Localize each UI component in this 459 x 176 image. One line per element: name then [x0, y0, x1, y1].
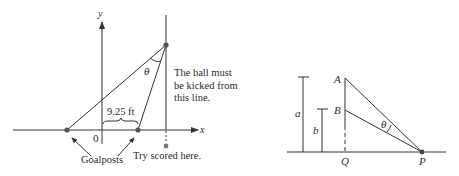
- goalposts-label: Goalposts: [81, 154, 123, 166]
- left-points: [64, 42, 168, 148]
- height-b-label: b: [313, 124, 319, 136]
- right-goalpost-point: [135, 127, 140, 132]
- note-line-1: The ball must: [174, 67, 238, 80]
- try-point: [164, 144, 169, 149]
- note-line-3: this line.: [174, 92, 238, 105]
- kick-line-note: The ball must be kicked from this line.: [174, 67, 238, 105]
- height-a-label: a: [295, 107, 301, 119]
- angle-theta-right: θ: [381, 118, 386, 130]
- point-p: [420, 150, 425, 155]
- distance-brace: [103, 118, 138, 124]
- angle-theta-left: θ: [144, 65, 149, 77]
- kick-point: [163, 42, 168, 47]
- try-scored-label: Try scored here.: [133, 150, 201, 162]
- left-goalpost-point: [64, 127, 69, 132]
- origin-label: 0: [93, 132, 99, 144]
- distance-label: 9.25 ft: [107, 106, 134, 118]
- x-axis-label: x: [200, 124, 204, 136]
- angle-arc: [150, 58, 161, 62]
- y-axis-label: y: [98, 8, 102, 20]
- point-b-label: B: [334, 104, 341, 116]
- line-a-to-p: [345, 78, 422, 152]
- point-p-label: P: [419, 155, 426, 167]
- angle-arc-right: [387, 125, 391, 132]
- right-diagram: [287, 77, 446, 152]
- line-b-to-p: [345, 110, 422, 152]
- note-line-2: be kicked from: [174, 80, 238, 93]
- point-q-label: Q: [341, 155, 349, 167]
- point-a-label: A: [334, 73, 341, 85]
- left-diagram: [13, 15, 198, 156]
- line-to-right-goalpost: [138, 45, 166, 130]
